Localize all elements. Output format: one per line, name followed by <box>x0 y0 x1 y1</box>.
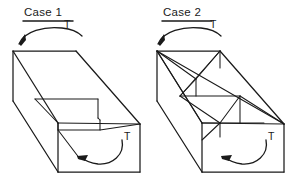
case-2-top-torque-arrow: T <box>158 18 221 46</box>
case-2-group: Case 2 T <box>157 6 284 172</box>
case-1-top-torque-arrow: T <box>19 18 82 46</box>
case-2-top-arrow-path <box>158 28 221 44</box>
case-2-bracing <box>157 51 284 140</box>
case-1-inner-wall-corner <box>98 118 100 120</box>
case-2-top-arrowhead <box>158 34 165 46</box>
case-1-top-arrow-path <box>19 28 82 44</box>
case-1-box <box>13 51 140 172</box>
case-1-top-arrowhead <box>19 34 26 46</box>
case-2-bottom-torque-label: T <box>268 130 275 142</box>
torsion-box-figure: Case 1 T <box>0 0 286 192</box>
case-2-top-right-edge <box>220 51 284 124</box>
case-1-title: Case 1 <box>24 6 62 18</box>
case-2-brace-b1-d <box>180 51 220 96</box>
case-2-bottom-arrow-path <box>224 140 266 164</box>
case-1-bottom-arrow-path <box>80 140 122 164</box>
case-1-inner-floor-step <box>58 120 100 130</box>
case-1-group: Case 1 T <box>13 6 140 172</box>
case-1-front-top-edge <box>58 123 140 124</box>
case-2-brace-b1-a <box>157 51 196 79</box>
case-1-inner-floor-front-diag <box>58 130 80 159</box>
case-1-inner-floor-right <box>100 124 140 130</box>
case-2-title: Case 2 <box>163 6 201 18</box>
case-1-bottom-torque-label: T <box>124 130 131 142</box>
case-1-bottom-torque-arrow: T <box>77 130 131 164</box>
case-2-brace-b2-c <box>202 123 220 140</box>
case-1-inner-left-diag <box>35 99 58 123</box>
case-1-top-right-edge <box>76 51 140 124</box>
case-2-brace-b2-e <box>240 96 284 124</box>
figure-canvas: Case 1 T <box>0 0 286 192</box>
case-1-top-torque-label: T <box>64 18 71 30</box>
case-2-top-torque-label: T <box>210 18 217 30</box>
case-2-brace-b2-b <box>220 96 240 123</box>
case-2-bottom-torque-arrow: T <box>221 130 275 164</box>
